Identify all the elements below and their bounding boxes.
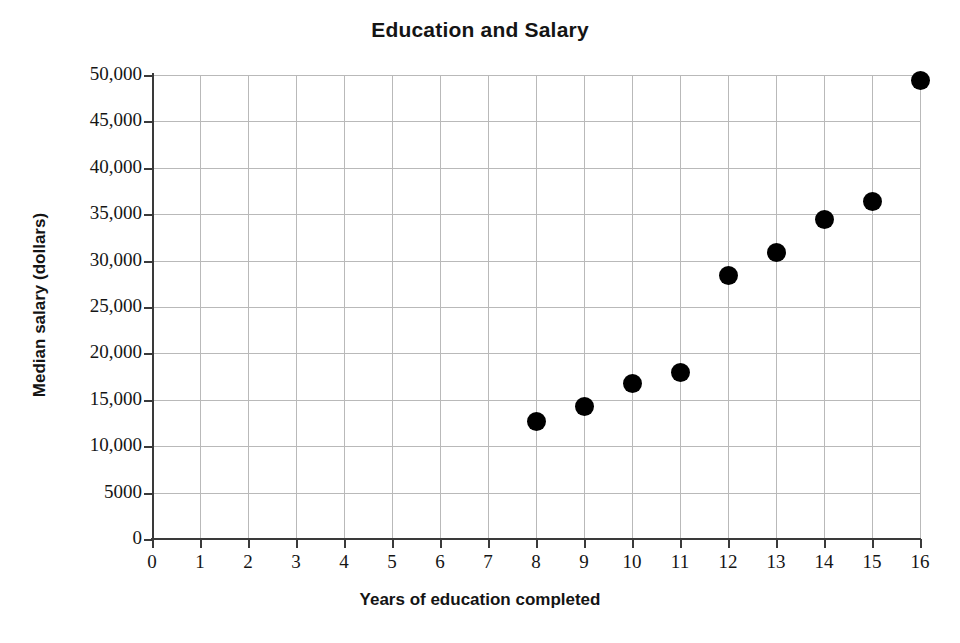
gridline-horizontal [152, 400, 920, 401]
x-axis-tick-label: 0 [130, 551, 174, 573]
y-axis-tick-label: 10,000 [52, 434, 142, 456]
x-axis-tick-label: 9 [562, 551, 606, 573]
y-axis-tick [144, 214, 153, 216]
y-axis-tick-label: 35,000 [52, 202, 142, 224]
x-axis-tick [584, 539, 586, 548]
y-axis-tick-label: 40,000 [52, 156, 142, 178]
y-axis-tick-label: 15,000 [52, 388, 142, 410]
gridline-horizontal [152, 261, 920, 262]
gridline-vertical [920, 75, 921, 539]
data-point [911, 71, 930, 90]
gridline-horizontal [152, 168, 920, 169]
x-axis-tick [776, 539, 778, 548]
y-axis-tick [144, 400, 153, 402]
x-axis-tick [200, 539, 202, 548]
y-axis-tick-label: 25,000 [52, 295, 142, 317]
x-axis-tick-label: 10 [610, 551, 654, 573]
x-axis-tick [632, 539, 634, 548]
x-axis-tick [872, 539, 874, 548]
gridline-horizontal [152, 493, 920, 494]
x-axis-tick-label: 15 [850, 551, 894, 573]
x-axis-tick-label: 8 [514, 551, 558, 573]
y-axis-tick-label: 0 [52, 527, 142, 549]
x-axis-tick-label: 6 [418, 551, 462, 573]
x-axis-tick [488, 539, 490, 548]
x-axis-tick [728, 539, 730, 548]
x-axis-tick-label: 16 [898, 551, 942, 573]
y-axis-tick [144, 261, 153, 263]
data-point [815, 210, 834, 229]
gridline-horizontal [152, 353, 920, 354]
x-axis-tick [824, 539, 826, 548]
x-axis-tick [296, 539, 298, 548]
y-axis-tick-label: 20,000 [52, 341, 142, 363]
x-axis-tick [392, 539, 394, 548]
y-axis-tick [144, 353, 153, 355]
gridline-horizontal [152, 214, 920, 215]
data-point [575, 397, 594, 416]
y-axis-tick-label: 5000 [52, 481, 142, 503]
data-point [527, 412, 546, 431]
y-axis-tick [144, 168, 153, 170]
y-axis-tick [144, 75, 153, 77]
data-point [719, 266, 738, 285]
chart-title: Education and Salary [0, 18, 960, 42]
x-axis-tick-label: 12 [706, 551, 750, 573]
gridline-horizontal [152, 75, 920, 76]
y-axis-label: Median salary (dollars) [30, 165, 50, 445]
gridline-horizontal [152, 446, 920, 447]
y-axis-tick-label: 45,000 [52, 109, 142, 131]
y-axis-tick-label: 30,000 [52, 249, 142, 271]
x-axis-tick-label: 7 [466, 551, 510, 573]
x-axis-tick-label: 4 [322, 551, 366, 573]
x-axis-tick [536, 539, 538, 548]
data-point [671, 363, 690, 382]
x-axis-tick [248, 539, 250, 548]
data-point [623, 374, 642, 393]
x-axis-tick [344, 539, 346, 548]
y-axis-tick [144, 493, 153, 495]
x-axis-tick-label: 14 [802, 551, 846, 573]
x-axis-tick [920, 539, 922, 548]
gridline-horizontal [152, 307, 920, 308]
gridline-horizontal [152, 121, 920, 122]
data-point [767, 243, 786, 262]
y-axis-tick [144, 121, 153, 123]
x-axis-tick [680, 539, 682, 548]
x-axis-label: Years of education completed [0, 590, 960, 610]
x-axis-tick-label: 13 [754, 551, 798, 573]
y-axis-tick [144, 446, 153, 448]
chart-figure: Education and Salary Median salary (doll… [0, 0, 960, 643]
y-axis-tick [144, 307, 153, 309]
x-axis-tick [440, 539, 442, 548]
y-axis-tick [144, 539, 153, 541]
x-axis-tick-label: 3 [274, 551, 318, 573]
data-point [863, 192, 882, 211]
x-axis-tick-label: 5 [370, 551, 414, 573]
x-axis-tick-label: 1 [178, 551, 222, 573]
x-axis-tick-label: 2 [226, 551, 270, 573]
y-axis-tick-label: 50,000 [52, 63, 142, 85]
y-axis-label-container: Median salary (dollars) [10, 0, 50, 643]
plot-area [152, 75, 920, 539]
x-axis-tick-label: 11 [658, 551, 702, 573]
